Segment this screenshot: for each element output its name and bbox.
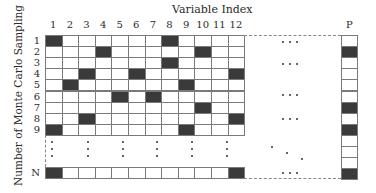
grid-cell-empty	[62, 124, 80, 136]
column-label: 8	[161, 19, 178, 30]
p-cell-filled	[341, 168, 358, 180]
ellipsis-dot	[271, 146, 273, 148]
grid-cell-empty	[178, 167, 196, 179]
row-label: 3	[28, 57, 40, 68]
grid-cell-empty	[145, 167, 163, 179]
column-label: 4	[95, 19, 112, 30]
grid-cell-filled	[178, 124, 196, 136]
dashed-left-border	[45, 135, 46, 167]
ellipsis-dot	[156, 155, 158, 157]
column-label: 7	[145, 19, 162, 30]
ellipsis-dot	[156, 148, 158, 150]
column-label: 10	[194, 19, 211, 30]
ellipsis-dot	[296, 118, 298, 120]
ellipsis-dot	[87, 141, 89, 143]
ellipsis-dot	[87, 155, 89, 157]
ellipsis-dot	[282, 41, 284, 43]
column-label: 3	[78, 19, 95, 30]
ellipsis-dot	[226, 141, 228, 143]
diagram-title: Variable Index	[172, 3, 253, 16]
column-label: 5	[111, 19, 128, 30]
grid-cell-empty	[78, 124, 96, 136]
ellipsis-dot	[122, 141, 124, 143]
ellipsis-dot	[301, 158, 303, 160]
ellipsis-dot	[51, 148, 53, 150]
grid-cell-empty	[95, 124, 113, 136]
dashed-top-border	[244, 35, 341, 36]
grid-cell-empty	[211, 124, 229, 136]
y-axis-label: Number of Monte Carlo Sampling	[12, 5, 24, 186]
row-label: 2	[28, 46, 40, 57]
row-label: 1	[28, 35, 40, 46]
ellipsis-dot	[51, 141, 53, 143]
row-label: 7	[28, 102, 40, 113]
grid-cell-empty	[145, 124, 163, 136]
ellipsis-dot	[87, 148, 89, 150]
grid-cell-empty	[111, 167, 129, 179]
row-label-n: N	[28, 167, 40, 178]
ellipsis-dot	[282, 118, 284, 120]
grid-cell-empty	[111, 124, 129, 136]
ellipsis-dot	[286, 152, 288, 154]
row-label: 6	[28, 91, 40, 102]
ellipsis-dot	[296, 63, 298, 65]
ellipsis-dot	[289, 41, 291, 43]
grid-cell-empty	[128, 167, 146, 179]
row-label: 4	[28, 68, 40, 79]
ellipsis-dot	[51, 155, 53, 157]
ellipsis-dot	[296, 172, 298, 174]
ellipsis-dot	[289, 118, 291, 120]
ellipsis-dot	[122, 148, 124, 150]
grid-cell-empty	[95, 167, 113, 179]
dashed-bottom-border	[244, 178, 341, 179]
ellipsis-dot	[226, 155, 228, 157]
column-label: 9	[178, 19, 195, 30]
row-label: 5	[28, 79, 40, 90]
ellipsis-dot	[156, 141, 158, 143]
column-label: 1	[45, 19, 62, 30]
row-label: 9	[28, 124, 40, 135]
ellipsis-dot	[289, 172, 291, 174]
ellipsis-dot	[191, 148, 193, 150]
ellipsis-dot	[296, 41, 298, 43]
row-label: 8	[28, 113, 40, 124]
ellipsis-dot	[289, 94, 291, 96]
grid-cell-empty	[211, 167, 229, 179]
ellipsis-dot	[296, 94, 298, 96]
ellipsis-dot	[282, 63, 284, 65]
grid-cell-empty	[78, 167, 96, 179]
p-column-label: P	[341, 19, 358, 30]
column-label: 2	[62, 19, 79, 30]
column-label: 6	[128, 19, 145, 30]
grid-cell-filled	[228, 167, 246, 179]
grid-cell-empty	[62, 167, 80, 179]
ellipsis-dot	[282, 94, 284, 96]
grid-cell-empty	[194, 124, 212, 136]
ellipsis-dot	[226, 148, 228, 150]
grid-cell-empty	[128, 124, 146, 136]
ellipsis-dot	[191, 155, 193, 157]
grid-cell-filled	[45, 167, 63, 179]
ellipsis-dot	[191, 141, 193, 143]
grid-cell-empty	[194, 167, 212, 179]
ellipsis-dot	[289, 63, 291, 65]
grid-cell-empty	[161, 124, 179, 136]
grid-cell-filled	[45, 124, 63, 136]
grid-cell-empty	[228, 124, 246, 136]
ellipsis-dot	[282, 172, 284, 174]
ellipsis-dot	[122, 155, 124, 157]
column-label: 12	[228, 19, 245, 30]
column-label: 11	[211, 19, 228, 30]
grid-cell-empty	[161, 167, 179, 179]
